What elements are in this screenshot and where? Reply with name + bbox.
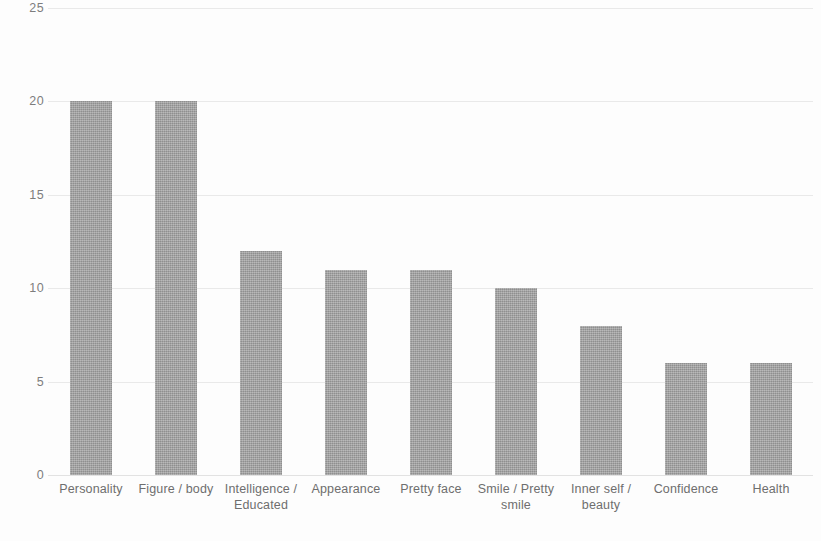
x-tick-label-line: Personality	[45, 481, 137, 497]
x-tick-label-line: Confidence	[640, 481, 732, 497]
y-tick-label: 25	[4, 2, 44, 15]
y-tick-label: 10	[4, 282, 44, 295]
x-tick-label-line: Pretty face	[385, 481, 477, 497]
bar	[495, 288, 537, 475]
x-tick-label: Smile / Prettysmile	[470, 481, 562, 513]
x-tick-label-line: Educated	[215, 497, 307, 513]
x-tick-label-line: Health	[725, 481, 817, 497]
bar	[70, 101, 112, 475]
gridline-0	[48, 475, 813, 476]
x-tick-label-line: Inner self /	[555, 481, 647, 497]
x-tick-label: Pretty face	[385, 481, 477, 497]
bar-chart: 2520151050 PersonalityFigure / bodyIntel…	[0, 0, 821, 541]
x-tick-label-line: Smile / Pretty	[470, 481, 562, 497]
bar	[240, 251, 282, 475]
bars-layer	[48, 8, 813, 475]
x-tick-label: Confidence	[640, 481, 732, 497]
x-tick-label: Personality	[45, 481, 137, 497]
x-tick-label: Health	[725, 481, 817, 497]
y-axis: 2520151050	[0, 8, 44, 475]
x-tick-label-line: beauty	[555, 497, 647, 513]
y-tick-label: 0	[4, 469, 44, 482]
y-tick-label: 15	[4, 189, 44, 202]
bar	[325, 270, 367, 475]
x-axis: PersonalityFigure / bodyIntelligence /Ed…	[48, 481, 813, 537]
x-tick-label-line: Figure / body	[130, 481, 222, 497]
x-tick-label-line: smile	[470, 497, 562, 513]
y-tick-label: 5	[4, 375, 44, 388]
x-tick-label: Intelligence /Educated	[215, 481, 307, 513]
x-tick-label: Inner self /beauty	[555, 481, 647, 513]
bar	[665, 363, 707, 475]
x-tick-label-line: Appearance	[300, 481, 392, 497]
x-tick-label: Appearance	[300, 481, 392, 497]
x-tick-label-line: Intelligence /	[215, 481, 307, 497]
bar	[155, 101, 197, 475]
y-tick-label: 20	[4, 95, 44, 108]
bar	[410, 270, 452, 475]
bar	[750, 363, 792, 475]
bar	[580, 326, 622, 475]
x-tick-label: Figure / body	[130, 481, 222, 497]
